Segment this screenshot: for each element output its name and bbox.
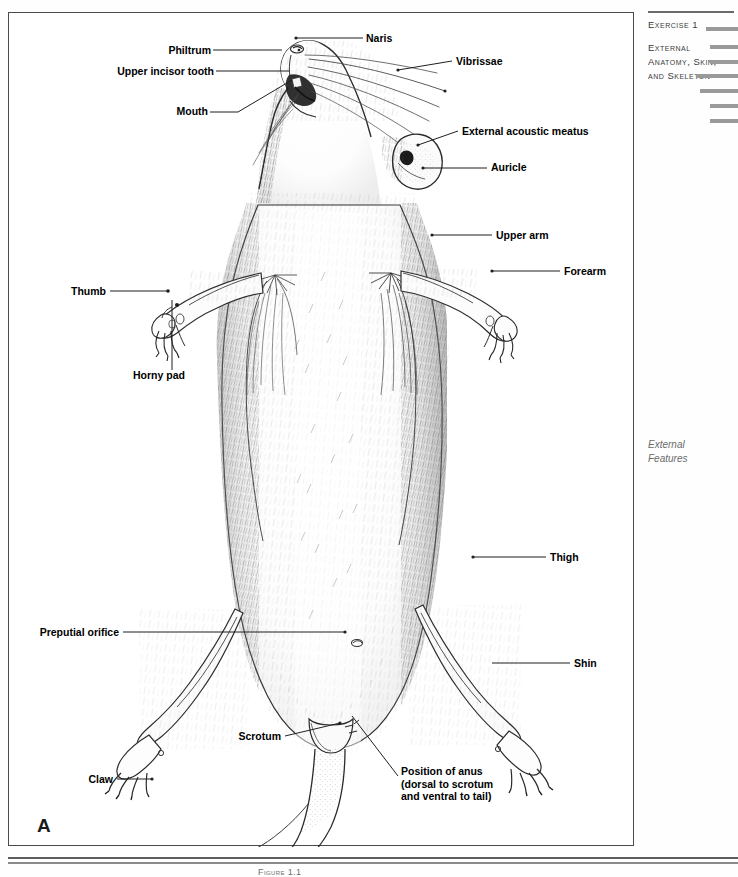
exercise-title-line-1: External — [648, 42, 691, 53]
running-head-rule — [648, 11, 734, 13]
thumb-tab-1 — [706, 27, 738, 31]
section-note-line-1: External — [648, 438, 734, 452]
exercise-title-line-2: Anatomy, Skin, — [648, 56, 717, 67]
label-scrotum: Scrotum — [224, 730, 281, 743]
tail — [255, 749, 345, 847]
thumb-tab-6 — [710, 104, 738, 108]
thumb-tab-3 — [710, 60, 738, 64]
label-auricle: Auricle — [491, 161, 527, 174]
label-forearm: Forearm — [564, 265, 606, 278]
label-mouth: Mouth — [118, 105, 208, 118]
label-shin: Shin — [574, 657, 597, 670]
thumb-tab-4 — [696, 74, 738, 78]
label-claw: Claw — [77, 773, 113, 786]
figure-rule-bottom — [8, 862, 738, 864]
left-foot — [105, 735, 164, 800]
figure-caption: Figure 1.1 — [258, 867, 302, 877]
thumb-tab-2 — [710, 45, 738, 49]
label-position-of-anus: Position of anus (dorsal to scrotum and … — [401, 765, 497, 803]
panel-letter: A — [37, 815, 51, 837]
section-note-line-2: Features — [648, 452, 734, 466]
label-preputial-orifice: Preputial orifice — [18, 626, 119, 639]
thumb-tab-7 — [710, 119, 738, 123]
section-note: External Features — [648, 438, 734, 466]
label-thigh: Thigh — [550, 551, 579, 564]
label-thumb: Thumb — [52, 285, 106, 298]
label-upper-incisor-tooth: Upper incisor tooth — [66, 65, 214, 78]
thumb-tab-5 — [700, 89, 738, 93]
label-philtrum: Philtrum — [113, 44, 211, 57]
figure-rule-top — [8, 857, 738, 859]
label-horny-pad: Horny pad — [133, 369, 185, 382]
right-foot — [495, 731, 553, 796]
exercise-number: Exercise 1 — [648, 19, 698, 30]
label-naris: Naris — [366, 32, 392, 45]
head-group — [253, 39, 447, 209]
label-upper-arm: Upper arm — [496, 229, 549, 242]
label-vibrissae: Vibrissae — [456, 55, 503, 68]
running-head-column: Exercise 1 External Anatomy, Skin, and S… — [648, 0, 738, 877]
document-page: A — [0, 0, 738, 877]
label-external-acoustic-meatus: External acoustic meatus — [462, 125, 589, 138]
left-hindlimb — [105, 609, 249, 800]
rat-ventral-illustration — [9, 13, 635, 847]
